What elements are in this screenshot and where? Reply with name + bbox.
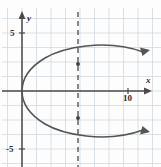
parabola-lower-arrowhead: [140, 126, 150, 135]
grid-lines: [2, 8, 161, 167]
x-tick-label-10: 10: [123, 94, 132, 103]
parabola-upper-arrowhead: [140, 48, 150, 57]
upper-intersection-point: [76, 62, 80, 66]
x-axis-label: x: [146, 76, 151, 85]
x-axis-arrowhead: [144, 88, 152, 95]
parabola-upper-branch: [22, 45, 143, 91]
y-tick-label-negative-5: -5: [6, 145, 14, 154]
y-tick-label-5: 5: [10, 29, 15, 38]
coordinate-plane-svg: [0, 0, 161, 167]
lower-intersection-point: [76, 116, 80, 120]
axes: [2, 16, 146, 167]
y-axis-label: y: [27, 14, 31, 23]
graph-figure: y x 5 -5 10: [0, 0, 161, 167]
y-axis-arrowhead: [19, 11, 26, 19]
